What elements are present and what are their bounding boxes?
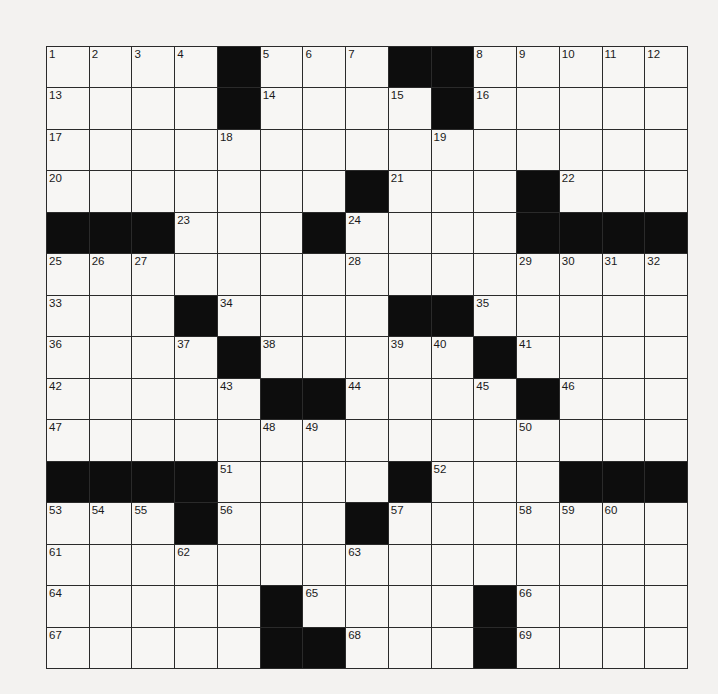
- grid-cell[interactable]: 51: [218, 462, 260, 502]
- grid-cell[interactable]: [389, 545, 431, 585]
- grid-cell[interactable]: [645, 337, 687, 377]
- grid-cell[interactable]: [303, 296, 345, 336]
- grid-cell[interactable]: [218, 171, 260, 211]
- grid-cell[interactable]: [175, 171, 217, 211]
- grid-cell[interactable]: 23: [175, 213, 217, 253]
- grid-cell[interactable]: [389, 628, 431, 668]
- grid-cell[interactable]: [90, 88, 132, 128]
- grid-cell[interactable]: [346, 462, 388, 502]
- grid-cell[interactable]: 28: [346, 254, 388, 294]
- grid-cell[interactable]: [645, 503, 687, 543]
- grid-cell[interactable]: 37: [175, 337, 217, 377]
- grid-cell[interactable]: 1: [47, 47, 89, 87]
- grid-cell[interactable]: 4: [175, 47, 217, 87]
- grid-cell[interactable]: [346, 586, 388, 626]
- grid-cell[interactable]: [90, 379, 132, 419]
- grid-cell[interactable]: 46: [560, 379, 602, 419]
- grid-cell[interactable]: 61: [47, 545, 89, 585]
- grid-cell[interactable]: 57: [389, 503, 431, 543]
- grid-cell[interactable]: [346, 88, 388, 128]
- grid-cell[interactable]: [303, 545, 345, 585]
- grid-cell[interactable]: [560, 628, 602, 668]
- grid-cell[interactable]: [261, 503, 303, 543]
- grid-cell[interactable]: [218, 586, 260, 626]
- grid-cell[interactable]: [432, 545, 474, 585]
- grid-cell[interactable]: 25: [47, 254, 89, 294]
- grid-cell[interactable]: [517, 462, 559, 502]
- grid-cell[interactable]: [560, 130, 602, 170]
- grid-cell[interactable]: [432, 503, 474, 543]
- grid-cell[interactable]: [261, 171, 303, 211]
- grid-cell[interactable]: [303, 462, 345, 502]
- grid-cell[interactable]: 24: [346, 213, 388, 253]
- grid-cell[interactable]: 69: [517, 628, 559, 668]
- grid-cell[interactable]: [389, 586, 431, 626]
- grid-cell[interactable]: [474, 254, 516, 294]
- grid-cell[interactable]: 48: [261, 420, 303, 460]
- grid-cell[interactable]: [218, 628, 260, 668]
- grid-cell[interactable]: [90, 171, 132, 211]
- grid-cell[interactable]: [261, 130, 303, 170]
- grid-cell[interactable]: [132, 296, 174, 336]
- grid-cell[interactable]: [90, 586, 132, 626]
- grid-cell[interactable]: [132, 130, 174, 170]
- grid-cell[interactable]: [560, 545, 602, 585]
- grid-cell[interactable]: 41: [517, 337, 559, 377]
- grid-cell[interactable]: [474, 420, 516, 460]
- grid-cell[interactable]: [645, 171, 687, 211]
- grid-cell[interactable]: 47: [47, 420, 89, 460]
- grid-cell[interactable]: [603, 171, 645, 211]
- grid-cell[interactable]: 12: [645, 47, 687, 87]
- grid-cell[interactable]: 38: [261, 337, 303, 377]
- grid-cell[interactable]: [90, 337, 132, 377]
- grid-cell[interactable]: [175, 130, 217, 170]
- grid-cell[interactable]: 20: [47, 171, 89, 211]
- grid-cell[interactable]: [175, 88, 217, 128]
- grid-cell[interactable]: [132, 420, 174, 460]
- grid-cell[interactable]: 58: [517, 503, 559, 543]
- grid-cell[interactable]: [603, 130, 645, 170]
- grid-cell[interactable]: 8: [474, 47, 516, 87]
- grid-cell[interactable]: 44: [346, 379, 388, 419]
- grid-cell[interactable]: [603, 420, 645, 460]
- grid-cell[interactable]: 50: [517, 420, 559, 460]
- grid-cell[interactable]: 63: [346, 545, 388, 585]
- grid-cell[interactable]: [346, 130, 388, 170]
- grid-cell[interactable]: [132, 171, 174, 211]
- grid-cell[interactable]: 42: [47, 379, 89, 419]
- grid-cell[interactable]: [474, 130, 516, 170]
- grid-cell[interactable]: 13: [47, 88, 89, 128]
- grid-cell[interactable]: [346, 296, 388, 336]
- grid-cell[interactable]: [303, 337, 345, 377]
- grid-cell[interactable]: [474, 213, 516, 253]
- grid-cell[interactable]: 31: [603, 254, 645, 294]
- grid-cell[interactable]: [132, 88, 174, 128]
- grid-cell[interactable]: [303, 171, 345, 211]
- grid-cell[interactable]: [432, 628, 474, 668]
- grid-cell[interactable]: [389, 130, 431, 170]
- grid-cell[interactable]: 32: [645, 254, 687, 294]
- grid-cell[interactable]: 18: [218, 130, 260, 170]
- grid-cell[interactable]: [645, 88, 687, 128]
- grid-cell[interactable]: [346, 420, 388, 460]
- grid-cell[interactable]: [603, 337, 645, 377]
- grid-cell[interactable]: [175, 586, 217, 626]
- grid-cell[interactable]: [474, 462, 516, 502]
- grid-cell[interactable]: [517, 296, 559, 336]
- grid-cell[interactable]: 39: [389, 337, 431, 377]
- grid-cell[interactable]: [645, 628, 687, 668]
- grid-cell[interactable]: [560, 88, 602, 128]
- grid-cell[interactable]: [645, 379, 687, 419]
- grid-cell[interactable]: [175, 379, 217, 419]
- grid-cell[interactable]: [432, 254, 474, 294]
- grid-cell[interactable]: [132, 379, 174, 419]
- grid-cell[interactable]: [474, 171, 516, 211]
- grid-cell[interactable]: 40: [432, 337, 474, 377]
- grid-cell[interactable]: 64: [47, 586, 89, 626]
- grid-cell[interactable]: [218, 254, 260, 294]
- grid-cell[interactable]: [603, 88, 645, 128]
- grid-cell[interactable]: 52: [432, 462, 474, 502]
- grid-cell[interactable]: 29: [517, 254, 559, 294]
- grid-cell[interactable]: [560, 586, 602, 626]
- grid-cell[interactable]: [175, 420, 217, 460]
